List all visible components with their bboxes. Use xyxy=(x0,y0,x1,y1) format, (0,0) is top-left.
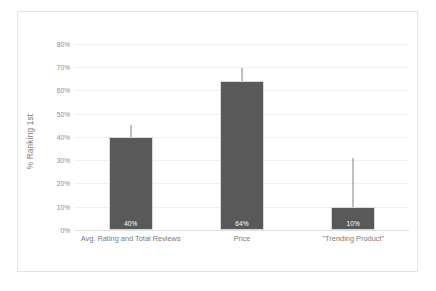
x-axis-line xyxy=(75,230,409,231)
bar-price[interactable]: 64% xyxy=(220,81,264,230)
bar-trending-product[interactable]: 10% xyxy=(331,207,375,230)
y-tick-label-60: 60% xyxy=(38,87,70,94)
y-axis-title: % Ranking 1st xyxy=(24,86,38,196)
y-tick-label-0: 0% xyxy=(38,227,70,234)
bar-value-label-1: 40% xyxy=(110,220,152,227)
y-tick-label-30: 30% xyxy=(38,157,70,164)
x-label-price: Price xyxy=(186,234,297,245)
y-tick-label-40: 40% xyxy=(38,134,70,141)
chart-plot-wrapper: % Ranking 1st 80% 70% 60% 50% 40% 30% 20… xyxy=(18,12,417,271)
bar-value-label-2: 64% xyxy=(221,220,263,227)
bar-value-label-3: 10% xyxy=(332,220,374,227)
y-tick-label-70: 70% xyxy=(38,64,70,71)
bar-slot-1: 40% xyxy=(75,44,186,230)
bar-slot-3: 10% xyxy=(298,44,409,230)
y-tick-label-10: 10% xyxy=(38,204,70,211)
bar-avg-rating-and-total-reviews[interactable]: 40% xyxy=(109,137,153,230)
x-axis-labels: Avg. Rating and Total Reviews Price "Tre… xyxy=(75,234,409,268)
y-tick-label-20: 20% xyxy=(38,180,70,187)
y-tick-label-50: 50% xyxy=(38,111,70,118)
chart-container: % Ranking 1st 80% 70% 60% 50% 40% 30% 20… xyxy=(17,11,418,272)
x-label-trending-product: "Trending Product" xyxy=(298,234,409,245)
y-tick-label-80: 80% xyxy=(38,41,70,48)
y-axis-title-text: % Ranking 1st xyxy=(27,113,36,168)
x-label-avg-rating-and-total-reviews: Avg. Rating and Total Reviews xyxy=(75,234,186,245)
bars-area: 40% 64% 10% xyxy=(75,44,409,230)
bar-slot-2: 64% xyxy=(186,44,297,230)
